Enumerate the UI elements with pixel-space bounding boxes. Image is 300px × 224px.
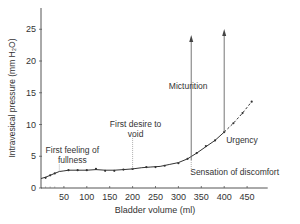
- annotation-urgency: Urgency: [226, 135, 258, 145]
- x-axis-label: Bladder volume (ml): [115, 205, 196, 215]
- y-tick-label: 20: [26, 56, 36, 66]
- data-point: [196, 152, 198, 154]
- x-tick-label: 150: [102, 192, 117, 202]
- data-point: [164, 165, 166, 167]
- data-point: [145, 166, 147, 168]
- data-point: [67, 169, 69, 171]
- y-tick-label: 0: [31, 183, 36, 193]
- x-tick-label: 450: [240, 192, 255, 202]
- x-tick-label: 100: [79, 192, 94, 202]
- x-tick-label: 250: [148, 192, 163, 202]
- annotation-first-feeling: First feeling of: [46, 145, 100, 155]
- x-tick-label: 50: [59, 192, 69, 202]
- data-point: [54, 172, 56, 174]
- y-tick-label: 25: [26, 24, 36, 34]
- y-tick-label: 15: [26, 88, 36, 98]
- svg-text:fullness: fullness: [58, 155, 87, 165]
- data-point: [177, 162, 179, 164]
- data-point: [86, 169, 88, 171]
- x-tick-label: 350: [194, 192, 209, 202]
- data-point: [205, 145, 207, 147]
- y-tick-label: 5: [31, 151, 36, 161]
- annotation-first-desire: First desire to: [110, 119, 162, 129]
- annotations: First feeling offullnessFirst desire tov…: [46, 29, 280, 177]
- y-tick-label: 10: [26, 120, 36, 130]
- data-point: [104, 170, 106, 172]
- arrowhead-icon: [222, 29, 226, 36]
- data-point: [113, 170, 115, 172]
- data-point: [154, 166, 156, 168]
- data-point: [214, 139, 216, 141]
- y-axis-label: Intravesical pressure (mm H₂O): [7, 38, 17, 157]
- x-tick-label: 200: [125, 192, 140, 202]
- data-point: [186, 158, 188, 160]
- annotation-discomfort: Sensation of discomfort: [190, 167, 279, 177]
- chart-svg: 051015202550100150200250300350400450 Fir…: [0, 0, 300, 224]
- data-point: [95, 168, 97, 170]
- data-point: [232, 122, 234, 124]
- data-point: [122, 168, 124, 170]
- extrapolated-curve: [224, 102, 252, 133]
- x-tick-label: 400: [217, 192, 232, 202]
- data-point: [251, 101, 253, 103]
- x-tick-label: 300: [171, 192, 186, 202]
- annotation-micturition: Micturition: [169, 81, 208, 91]
- data-point: [241, 112, 243, 114]
- arrowhead-icon: [189, 35, 193, 42]
- data-point: [44, 177, 46, 179]
- data-point: [49, 174, 51, 176]
- cystometrogram-chart: 051015202550100150200250300350400450 Fir…: [0, 0, 300, 224]
- svg-text:void: void: [128, 129, 144, 139]
- data-point: [77, 169, 79, 171]
